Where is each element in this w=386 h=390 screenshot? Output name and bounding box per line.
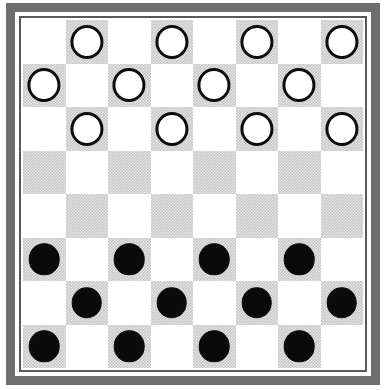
board-square-d2[interactable]	[151, 281, 194, 325]
board-square-h3[interactable]	[321, 238, 364, 282]
board-square-b8[interactable]	[66, 20, 109, 64]
white-piece[interactable]	[113, 68, 146, 102]
white-piece[interactable]	[70, 25, 103, 59]
board-outer-frame	[6, 3, 380, 385]
board-square-b2[interactable]	[66, 281, 109, 325]
black-piece[interactable]	[114, 244, 145, 275]
white-piece[interactable]	[28, 68, 61, 102]
board-square-g2[interactable]	[278, 281, 321, 325]
board-square-a2[interactable]	[23, 281, 66, 325]
board-square-g4[interactable]	[278, 194, 321, 238]
board-square-e6[interactable]	[193, 107, 236, 151]
board-square-g1[interactable]	[278, 325, 321, 369]
black-piece[interactable]	[241, 287, 272, 318]
white-piece[interactable]	[325, 25, 358, 59]
board-square-d6[interactable]	[151, 107, 194, 151]
board-square-e8[interactable]	[193, 20, 236, 64]
board-square-f7[interactable]	[236, 64, 279, 108]
board-square-b4[interactable]	[66, 194, 109, 238]
board-square-b7[interactable]	[66, 64, 109, 108]
black-piece[interactable]	[29, 244, 60, 275]
board-square-e2[interactable]	[193, 281, 236, 325]
board-square-h1[interactable]	[321, 325, 364, 369]
board-square-f3[interactable]	[236, 238, 279, 282]
board-square-c2[interactable]	[108, 281, 151, 325]
white-piece[interactable]	[155, 112, 188, 146]
white-piece[interactable]	[240, 25, 273, 59]
white-piece[interactable]	[155, 25, 188, 59]
black-piece[interactable]	[71, 287, 102, 318]
board-square-d3[interactable]	[151, 238, 194, 282]
board-square-f2[interactable]	[236, 281, 279, 325]
board-square-d4[interactable]	[151, 194, 194, 238]
black-piece[interactable]	[29, 331, 60, 362]
board-square-b6[interactable]	[66, 107, 109, 151]
black-piece[interactable]	[199, 244, 230, 275]
board-square-d1[interactable]	[151, 325, 194, 369]
white-piece[interactable]	[240, 112, 273, 146]
white-piece[interactable]	[198, 68, 231, 102]
board-square-b3[interactable]	[66, 238, 109, 282]
board-square-e3[interactable]	[193, 238, 236, 282]
scan-page	[0, 0, 386, 390]
white-piece[interactable]	[325, 112, 358, 146]
black-piece[interactable]	[114, 331, 145, 362]
board-square-g7[interactable]	[278, 64, 321, 108]
board-square-e4[interactable]	[193, 194, 236, 238]
board-square-c5[interactable]	[108, 151, 151, 195]
board-square-g5[interactable]	[278, 151, 321, 195]
board-square-h4[interactable]	[321, 194, 364, 238]
board-square-e7[interactable]	[193, 64, 236, 108]
board-square-f5[interactable]	[236, 151, 279, 195]
board-square-d8[interactable]	[151, 20, 194, 64]
board-square-a3[interactable]	[23, 238, 66, 282]
board-square-e1[interactable]	[193, 325, 236, 369]
board-square-a6[interactable]	[23, 107, 66, 151]
board-square-h7[interactable]	[321, 64, 364, 108]
board-square-d5[interactable]	[151, 151, 194, 195]
checkers-board-grid[interactable]	[23, 20, 363, 368]
board-square-a1[interactable]	[23, 325, 66, 369]
board-square-g8[interactable]	[278, 20, 321, 64]
board-square-c6[interactable]	[108, 107, 151, 151]
black-piece[interactable]	[199, 331, 230, 362]
board-square-a7[interactable]	[23, 64, 66, 108]
board-square-f6[interactable]	[236, 107, 279, 151]
board-square-f4[interactable]	[236, 194, 279, 238]
black-piece[interactable]	[326, 287, 357, 318]
board-square-c1[interactable]	[108, 325, 151, 369]
board-square-h6[interactable]	[321, 107, 364, 151]
board-square-b1[interactable]	[66, 325, 109, 369]
board-square-a4[interactable]	[23, 194, 66, 238]
board-square-a8[interactable]	[23, 20, 66, 64]
board-square-c7[interactable]	[108, 64, 151, 108]
board-square-f1[interactable]	[236, 325, 279, 369]
black-piece[interactable]	[284, 244, 315, 275]
board-square-e5[interactable]	[193, 151, 236, 195]
board-square-h5[interactable]	[321, 151, 364, 195]
board-square-c3[interactable]	[108, 238, 151, 282]
board-inner-rule	[19, 16, 367, 372]
board-square-d7[interactable]	[151, 64, 194, 108]
board-square-h8[interactable]	[321, 20, 364, 64]
board-square-g3[interactable]	[278, 238, 321, 282]
board-square-g6[interactable]	[278, 107, 321, 151]
white-piece[interactable]	[283, 68, 316, 102]
board-square-c8[interactable]	[108, 20, 151, 64]
board-square-f8[interactable]	[236, 20, 279, 64]
board-square-a5[interactable]	[23, 151, 66, 195]
board-square-h2[interactable]	[321, 281, 364, 325]
black-piece[interactable]	[156, 287, 187, 318]
black-piece[interactable]	[284, 331, 315, 362]
board-square-c4[interactable]	[108, 194, 151, 238]
white-piece[interactable]	[70, 112, 103, 146]
board-square-b5[interactable]	[66, 151, 109, 195]
